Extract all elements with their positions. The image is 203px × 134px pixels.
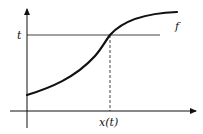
label-x-of-t: x(t) — [99, 116, 118, 129]
curve-f — [27, 12, 177, 95]
inverse-function-diagram: t f x(t) — [0, 0, 203, 134]
label-f: f — [174, 20, 181, 33]
label-t: t — [17, 29, 22, 42]
